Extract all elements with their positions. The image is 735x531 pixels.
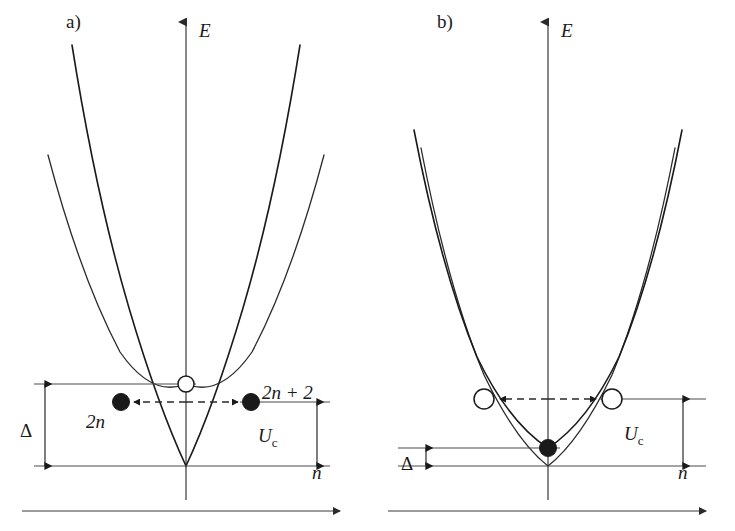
- panel-a-state-label-right: 2n + 2: [262, 382, 313, 403]
- panel-b-delta-label: Δ: [401, 453, 413, 474]
- panel-a-uc-label: Uc: [258, 425, 278, 450]
- panel-b: b) E n: [388, 11, 706, 511]
- panel-a-filled-circle-right[interactable]: [243, 394, 260, 411]
- panel-a-letter: a): [66, 11, 81, 33]
- energy-diagram-figure: a) E n 2n: [0, 0, 735, 531]
- panel-b-uc-label: Uc: [624, 423, 644, 448]
- panel-b-letter: b): [437, 11, 453, 33]
- panel-a-open-circle-marker[interactable]: [178, 376, 194, 392]
- panel-a-filled-circle-left[interactable]: [113, 394, 130, 411]
- panel-b-e-axis-label: E: [560, 20, 573, 41]
- figure-canvas: a) E n 2n: [0, 0, 735, 531]
- panel-a-state-label-left: 2n: [86, 411, 105, 432]
- panel-a-delta-label: Δ: [20, 420, 32, 441]
- panel-b-filled-circle[interactable]: [540, 440, 557, 457]
- panel-b-open-circle-right[interactable]: [602, 389, 622, 409]
- panel-b-open-circle-left[interactable]: [474, 389, 494, 409]
- panel-a: a) E n 2n: [20, 11, 340, 511]
- panel-a-e-axis-label: E: [198, 20, 211, 41]
